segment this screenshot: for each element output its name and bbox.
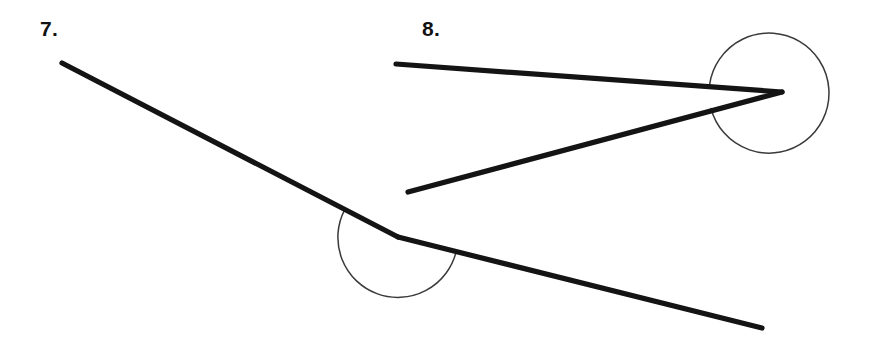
problem-7-upper-left-ray — [62, 63, 398, 237]
problem-7-number-label: 7. — [40, 18, 58, 39]
worksheet-canvas: 7. 8. — [0, 0, 873, 350]
problem-8-upper-left-ray — [396, 64, 782, 92]
problem-8-lower-left-ray — [408, 92, 782, 192]
problem-7-lower-right-ray — [398, 237, 762, 328]
problem-8-figure — [396, 33, 829, 192]
problem-7-figure — [62, 63, 762, 328]
problem-7-reflex-angle-arc — [338, 210, 456, 298]
problem-8-number-label: 8. — [422, 18, 440, 39]
geometry-figure — [0, 0, 873, 350]
